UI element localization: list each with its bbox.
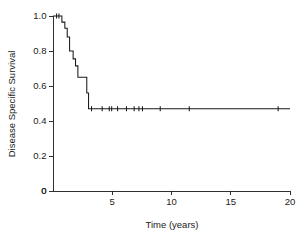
y-axis-tick-label: 0.6 (33, 80, 46, 91)
y-axis-tick-label: 0.4 (33, 115, 46, 126)
survival-chart-figure: 00.20.40.60.81.0 05101520 Time (years) D… (0, 0, 307, 235)
y-axis-tick-label: 0.2 (33, 150, 46, 161)
kaplan-meier-plot: 00.20.40.60.81.0 05101520 Time (years) D… (0, 0, 307, 235)
y-axis-title: Disease Specific Survival (6, 51, 17, 158)
y-axis-tick-label: 1.0 (33, 10, 46, 21)
x-axis-tick-label: 0 (41, 185, 46, 196)
x-axis-tick-label: 20 (285, 196, 296, 207)
survival-step-curve (53, 16, 290, 109)
x-axis-tick-label: 15 (225, 196, 236, 207)
y-axis-tick-labels: 00.20.40.60.81.0 (33, 10, 46, 196)
x-axis-tick-labels: 05101520 (41, 185, 295, 206)
survival-curve-group (53, 13, 290, 111)
x-axis-title: Time (years) (146, 219, 199, 230)
x-axis-ticks (112, 191, 290, 195)
x-axis-tick-label: 5 (110, 196, 115, 207)
y-axis-ticks (49, 16, 53, 191)
x-axis-tick-label: 10 (166, 196, 177, 207)
censor-marks-group (57, 13, 279, 111)
y-axis-tick-label: 0.8 (33, 45, 46, 56)
